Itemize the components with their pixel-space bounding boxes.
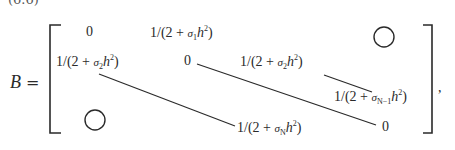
entry-r1-super: 1/(2 + σ1h2) [150, 24, 213, 42]
entry-r2-sub: 1/(2 + σ2h2) [56, 53, 119, 71]
entry-r2-super: 1/(2 + σ2h2) [240, 53, 303, 71]
zero-block-upper-icon [374, 27, 394, 47]
sub-diagonal-line [99, 74, 235, 126]
entry-r1-diag: 0 [86, 24, 93, 40]
entry-r3-super: 1/(2 + σN−1h2) [334, 88, 407, 106]
entry-r4-diag: 0 [382, 119, 389, 135]
trailing-comma: , [438, 80, 442, 96]
entry-r2-diag: 0 [184, 53, 191, 69]
zero-block-lower-icon [85, 110, 105, 130]
right-bracket-icon [423, 25, 432, 133]
left-bracket-icon [50, 25, 61, 133]
entry-r4-sub: 1/(2 + σNh2) [237, 119, 301, 137]
